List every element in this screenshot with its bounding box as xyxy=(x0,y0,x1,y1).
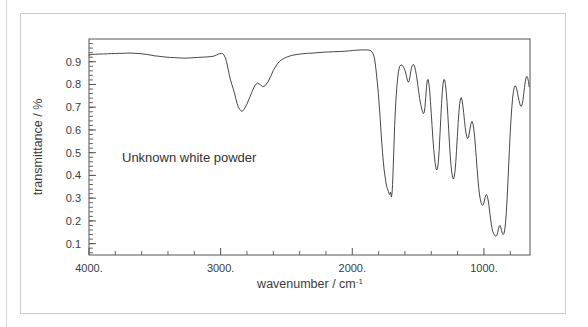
spectrum-annotation: Unknown white powder xyxy=(122,150,257,165)
x-axis-major-ticks xyxy=(89,248,484,255)
x-axis-title-exponent: -1 xyxy=(356,277,364,286)
y-tick-label: 0.5 xyxy=(66,147,81,159)
y-tick-label: 0.7 xyxy=(66,101,81,113)
x-axis-tick-labels: 4000.3000.2000.1000. xyxy=(75,262,497,274)
y-tick-label: 0.9 xyxy=(66,56,81,68)
y-axis-tick-labels: 0.90.80.70.60.50.40.30.20.1 xyxy=(66,56,81,250)
y-tick-label: 0.3 xyxy=(66,192,81,204)
y-tick-label: 0.2 xyxy=(66,215,81,227)
plot-area-border xyxy=(89,39,530,255)
figure-page: 0.90.80.70.60.50.40.30.20.1 4000.3000.20… xyxy=(0,0,588,327)
x-tick-label: 4000. xyxy=(75,262,103,274)
y-tick-label: 0.8 xyxy=(66,78,81,90)
y-tick-label: 0.4 xyxy=(66,169,81,181)
x-tick-label: 2000. xyxy=(339,262,367,274)
x-axis-title-main: wavenumber / cm xyxy=(256,277,356,291)
ir-spectrum-svg: 0.90.80.70.60.50.40.30.20.1 4000.3000.20… xyxy=(0,0,588,327)
x-axis-title: wavenumber / cm-1 xyxy=(256,277,363,291)
x-axis-minor-ticks xyxy=(115,251,510,255)
spectrum-trace xyxy=(89,50,529,236)
x-tick-label: 3000. xyxy=(207,262,235,274)
y-tick-label: 0.1 xyxy=(66,238,81,250)
ir-spectrum-chart: 0.90.80.70.60.50.40.30.20.1 4000.3000.20… xyxy=(0,0,588,327)
y-tick-label: 0.6 xyxy=(66,124,81,136)
y-axis-title: transmittance / % xyxy=(31,99,45,196)
x-tick-label: 1000. xyxy=(470,262,498,274)
